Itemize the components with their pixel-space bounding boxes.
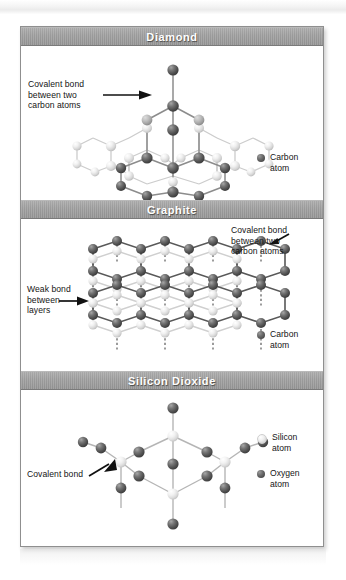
panel-graphite: Graphite: [21, 200, 323, 371]
diamond-lattice-diagram: [21, 46, 323, 200]
figure-frame: Diamond: [20, 26, 324, 547]
diamond-covalent-bond-label: Covalent bond between two carbon atoms: [28, 79, 84, 111]
diamond-annotation-arrow: [103, 91, 152, 100]
silica-covalent-arrow: [89, 459, 117, 476]
panel-header-graphite: Graphite: [21, 200, 323, 219]
legend-carbon-graphite: Carbon atom: [257, 329, 298, 350]
dark-sphere-icon: [257, 470, 265, 478]
panel-silicon-dioxide: Silicon Dioxide: [21, 371, 323, 545]
legend-carbon-label-graphite: Carbon atom: [270, 329, 298, 350]
legend-carbon-diamond: Carbon atom: [257, 152, 298, 173]
panel-title-silicon-dioxide: Silicon Dioxide: [128, 375, 216, 387]
panel-body-diamond: Covalent bond between two carbon atoms C…: [21, 46, 323, 200]
dark-sphere-icon: [257, 154, 265, 162]
panel-title-diamond: Diamond: [146, 31, 197, 43]
legend-silicon-label: Silicon atom: [272, 432, 297, 453]
panel-title-graphite: Graphite: [147, 204, 197, 216]
legend-oxygen: Oxygen atom: [257, 468, 300, 489]
page-top-scan-band: [0, 0, 346, 14]
light-sphere-icon: [257, 434, 267, 444]
panel-body-graphite: Covalent bond between two carbon atoms W…: [21, 219, 323, 371]
legend-oxygen-label: Oxygen atom: [270, 468, 300, 489]
graphite-covalent-bond-label: Covalent bond between two carbon atoms: [231, 225, 287, 257]
legend-silicon: Silicon atom: [257, 432, 297, 453]
silica-covalent-bond-label: Covalent bond: [27, 469, 83, 480]
panel-header-diamond: Diamond: [21, 27, 323, 46]
panel-body-silicon-dioxide: Covalent bond Silicon atom Oxygen atom: [21, 390, 323, 545]
dark-sphere-icon: [257, 331, 265, 339]
legend-carbon-label-diamond: Carbon atom: [270, 152, 298, 173]
page-bottom-shadow: [20, 549, 326, 565]
panel-header-silicon-dioxide: Silicon Dioxide: [21, 371, 323, 390]
panel-diamond: Diamond: [21, 27, 323, 200]
graphite-weak-bond-label: Weak bond between layers: [27, 284, 71, 316]
